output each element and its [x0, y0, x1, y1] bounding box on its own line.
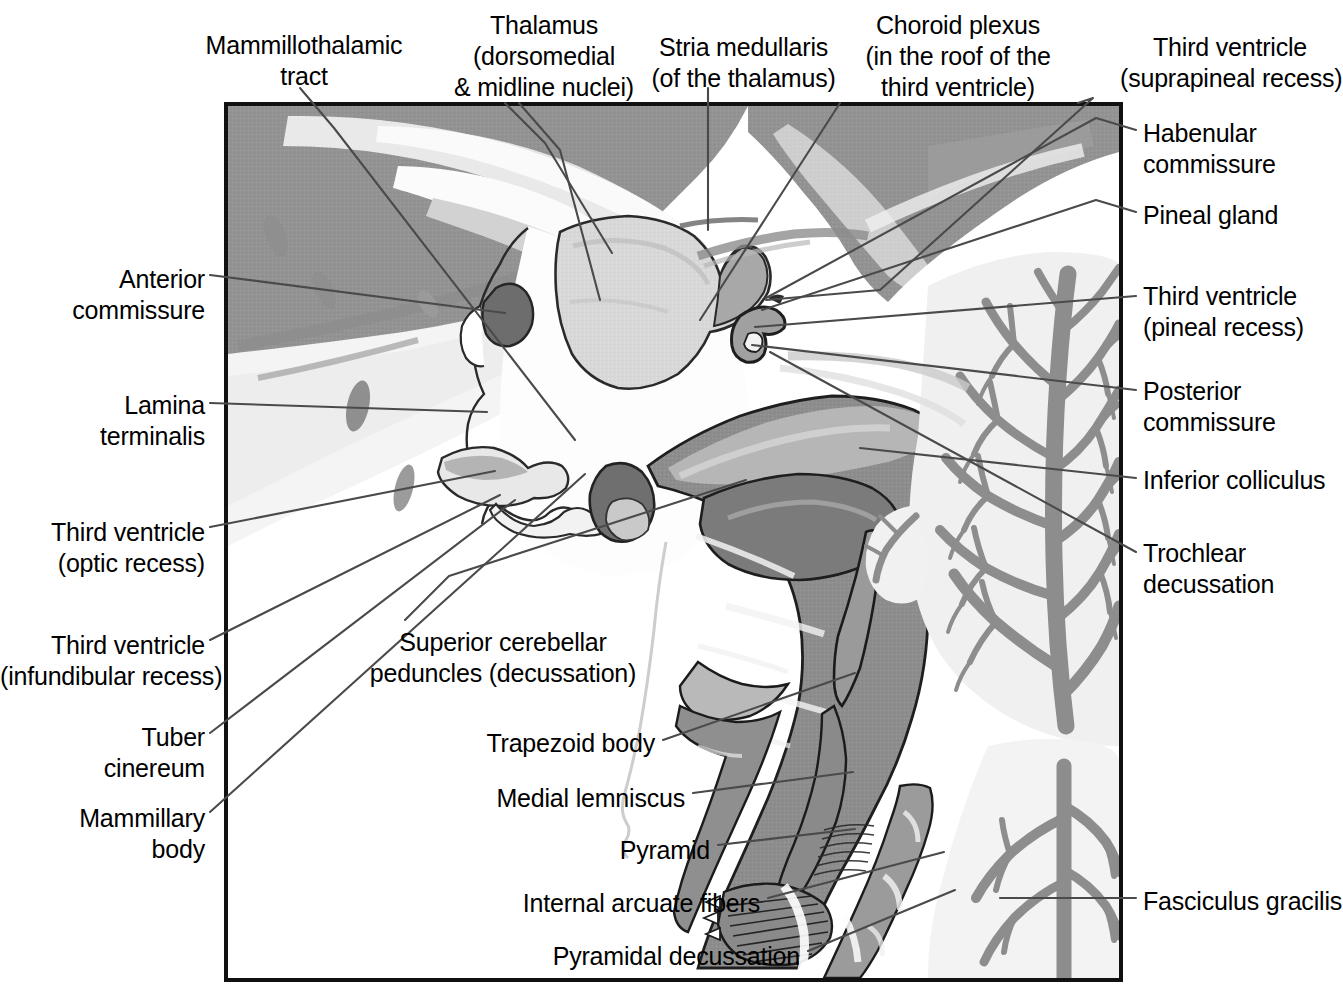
label-medial-lemniscus: Medial lemniscus — [330, 783, 685, 814]
label-tuber-cinereum: Tuber cinereum — [5, 722, 205, 784]
label-pyramid: Pyramid — [330, 835, 710, 866]
label-fasciculus-gracilis: Fasciculus gracilis — [1143, 886, 1333, 917]
label-thalamus: Thalamus (dorsomedial & midline nuclei) — [449, 10, 639, 103]
label-posterior-commissure: Posterior commissure — [1143, 376, 1333, 438]
label-mammillary-body: Mammillary body — [5, 803, 205, 865]
label-third-ventricle-infundibular: Third ventricle (infundibular recess) — [0, 630, 205, 692]
anterior-commissure-structure — [482, 284, 533, 346]
label-mammillothalamic-tract: Mammillothalamic tract — [204, 30, 404, 92]
label-third-ventricle-pineal: Third ventricle (pineal recess) — [1143, 281, 1333, 343]
label-inferior-colliculus: Inferior colliculus — [1143, 465, 1333, 496]
label-trochlear-decussation: Trochlear decussation — [1143, 538, 1333, 600]
label-internal-arcuate-fibers: Internal arcuate fibers — [330, 888, 760, 919]
label-anterior-commissure: Anterior commissure — [5, 264, 205, 326]
mammillary-body-core — [606, 498, 649, 540]
label-superior-cerebellar-peduncles: Superior cerebellar peduncles (decussati… — [368, 627, 638, 689]
label-pyramidal-decussation: Pyramidal decussation — [330, 941, 800, 972]
label-third-ventricle-optic: Third ventricle (optic recess) — [5, 517, 205, 579]
label-stria-medullaris: Stria medullaris (of the thalamus) — [651, 32, 836, 94]
pineal-recess — [744, 333, 762, 352]
label-habenular-commissure: Habenular commissure — [1143, 118, 1333, 180]
label-lamina-terminalis: Lamina terminalis — [5, 390, 205, 452]
label-trapezoid-body: Trapezoid body — [330, 728, 655, 759]
label-choroid-plexus: Choroid plexus (in the roof of the third… — [858, 10, 1058, 103]
label-pineal-gland: Pineal gland — [1143, 200, 1333, 231]
label-third-ventricle-suprapineal: Third ventricle (suprapineal recess) — [1120, 32, 1340, 94]
